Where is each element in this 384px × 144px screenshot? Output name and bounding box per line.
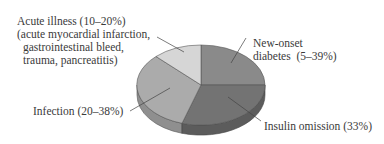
label-new-onset-diabetes-2: diabetes (5–39%) — [253, 50, 337, 63]
label-insulin-omission: Insulin omission (33%) — [264, 120, 372, 133]
label-acute-illness-detail-2: gastrointestinal bleed, — [23, 41, 124, 54]
label-acute-illness-detail-3: trauma, pancreatitis) — [23, 54, 118, 67]
label-acute-illness: Acute illness (10–20%) — [17, 15, 126, 28]
label-infection: Infection (20–38%) — [33, 105, 124, 118]
pie-chart: Acute illness (10–20%) (acute myocardial… — [0, 0, 384, 144]
pie-top — [137, 45, 265, 125]
label-new-onset-diabetes: New-onset — [253, 37, 304, 49]
label-acute-illness-detail-1: (acute myocardial infarction, — [17, 28, 150, 41]
